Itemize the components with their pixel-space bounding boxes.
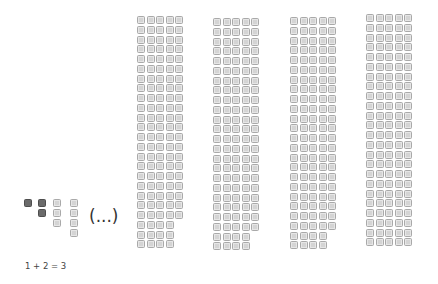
unit-square — [366, 190, 374, 198]
unit-square — [232, 242, 240, 250]
unit-square — [166, 201, 174, 209]
unit-square — [166, 114, 174, 122]
unit-square — [232, 67, 240, 75]
unit-square — [242, 67, 250, 75]
unit-square — [404, 24, 412, 32]
unit-square — [223, 125, 231, 133]
unit-square — [309, 144, 317, 152]
unit-square — [290, 144, 298, 152]
unit-square — [24, 199, 32, 207]
unit-square — [156, 192, 164, 200]
unit-square — [385, 112, 393, 120]
unit-square — [232, 203, 240, 211]
unit-square — [147, 36, 155, 44]
unit-square — [175, 192, 183, 200]
unit-square — [366, 82, 374, 90]
unit-square — [328, 202, 336, 210]
unit-square — [166, 45, 174, 53]
unit-square — [309, 232, 317, 240]
unit-square — [319, 222, 327, 230]
unit-square — [156, 123, 164, 131]
unit-square — [319, 27, 327, 35]
unit-square — [376, 199, 384, 207]
unit-square — [319, 95, 327, 103]
unit-square — [319, 183, 327, 191]
unit-square — [70, 199, 78, 207]
unit-square — [376, 24, 384, 32]
unit-square — [366, 34, 374, 42]
unit-square — [404, 14, 412, 22]
unit-square — [319, 154, 327, 162]
unit-square — [53, 209, 61, 217]
unit-square — [319, 144, 327, 152]
unit-square — [319, 46, 327, 54]
unit-square — [223, 242, 231, 250]
unit-square — [242, 38, 250, 46]
unit-square — [70, 229, 78, 237]
unit-square — [232, 77, 240, 85]
unit-square — [251, 135, 259, 143]
unit-square — [309, 183, 317, 191]
unit-square — [290, 85, 298, 93]
unit-square — [395, 180, 403, 188]
unit-square — [300, 85, 308, 93]
unit-square — [376, 92, 384, 100]
unit-square — [223, 86, 231, 94]
unit-square — [385, 219, 393, 227]
unit-square — [242, 57, 250, 65]
unit-square — [223, 135, 231, 143]
unit-square — [175, 162, 183, 170]
unit-square — [213, 106, 221, 114]
unit-square — [319, 212, 327, 220]
unit-square — [385, 92, 393, 100]
unit-square — [223, 203, 231, 211]
unit-square — [300, 154, 308, 162]
unit-square — [290, 105, 298, 113]
unit-square — [319, 17, 327, 25]
unit-square — [319, 37, 327, 45]
unit-square — [147, 123, 155, 131]
unit-square — [366, 14, 374, 22]
unit-square — [300, 183, 308, 191]
unit-square — [328, 95, 336, 103]
unit-square — [328, 115, 336, 123]
unit-square — [147, 75, 155, 83]
unit-square — [242, 233, 250, 241]
unit-square — [213, 213, 221, 221]
unit-square — [137, 45, 145, 53]
unit-square — [404, 34, 412, 42]
unit-square — [175, 172, 183, 180]
unit-square — [395, 141, 403, 149]
unit-square — [213, 18, 221, 26]
unit-square — [166, 65, 174, 73]
unit-square — [404, 63, 412, 71]
unit-square — [175, 55, 183, 63]
unit-square — [166, 182, 174, 190]
unit-square — [328, 105, 336, 113]
unit-square — [242, 164, 250, 172]
unit-square — [404, 121, 412, 129]
unit-square — [175, 36, 183, 44]
unit-square — [223, 164, 231, 172]
unit-square — [166, 221, 174, 229]
unit-square — [300, 17, 308, 25]
unit-square — [376, 53, 384, 61]
unit-square — [137, 143, 145, 151]
unit-square — [290, 212, 298, 220]
unit-square — [137, 162, 145, 170]
unit-square — [376, 14, 384, 22]
unit-square — [156, 94, 164, 102]
unit-square — [328, 37, 336, 45]
unit-square — [156, 162, 164, 170]
unit-square — [156, 221, 164, 229]
unit-square — [251, 67, 259, 75]
unit-square — [309, 212, 317, 220]
unit-square — [300, 241, 308, 249]
unit-square — [147, 192, 155, 200]
unit-square — [137, 36, 145, 44]
unit-square — [366, 112, 374, 120]
unit-square — [290, 115, 298, 123]
unit-square — [137, 114, 145, 122]
unit-square — [309, 66, 317, 74]
unit-square — [223, 184, 231, 192]
